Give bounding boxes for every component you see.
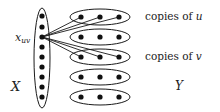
left-vertex [39,64,44,69]
right-group-group-4 [70,69,130,85]
left-vertex [39,54,44,59]
left-vertex [39,24,44,29]
right-group-group-5 [70,89,130,105]
left-vertex [39,13,44,18]
bipartite-diagram: xuv X copies of u copies of v Y [0,0,220,112]
right-vertex [78,94,83,99]
right-vertex [97,54,102,59]
right-vertex [78,34,83,39]
right-group-copy-u [70,9,130,25]
left-vertex [39,84,44,89]
edge-line [42,17,119,37]
copies-of-v-label: copies of v [145,50,202,62]
right-vertex [78,14,83,19]
right-vertex [78,54,83,59]
right-vertex [97,34,102,39]
right-vertex [97,74,102,79]
left-set-x [34,8,50,108]
copies-of-u-label: copies of u [145,10,203,22]
right-vertex [116,94,121,99]
left-vertex [39,44,44,49]
right-set-y [70,9,130,105]
left-vertex [39,74,44,79]
right-vertex [97,14,102,19]
right-vertex [116,54,121,59]
edge-line [42,37,119,57]
edge-line [42,37,100,57]
vertex-x-uv [39,34,44,39]
right-vertex [116,14,121,19]
right-vertex [97,94,102,99]
right-vertex [116,34,121,39]
edge-line [42,37,81,57]
vertex-label-x-uv: xuv [15,31,31,45]
right-vertex [78,74,83,79]
set-label-y: Y [175,79,184,93]
left-vertex [39,94,44,99]
edge-line [42,17,100,37]
right-group-copy-v [70,49,130,65]
right-group-group-2 [70,29,130,45]
right-vertex [116,74,121,79]
set-label-x: X [10,79,21,94]
